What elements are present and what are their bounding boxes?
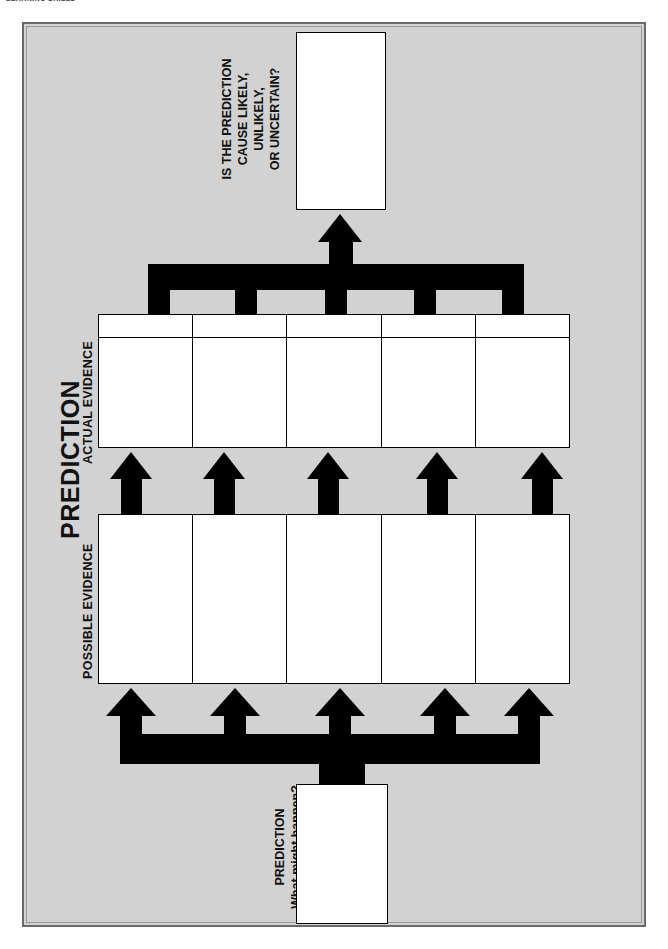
fan-out-stem: [319, 764, 365, 786]
worksheet-frame: PREDICTION ACTUAL EVIDENCE POSSIBLE EVID…: [22, 22, 646, 927]
possible-evidence-cell[interactable]: [99, 515, 193, 683]
actual-evidence-cell[interactable]: [193, 315, 287, 447]
possible-evidence-cell[interactable]: [476, 515, 569, 683]
actual-evidence-cell[interactable]: [382, 315, 476, 447]
fan-in-tine-2: [235, 290, 257, 316]
fan-out-tine-4: [434, 714, 456, 736]
conclusion-answer-box[interactable]: [296, 32, 386, 210]
possible-evidence-cell[interactable]: [193, 515, 287, 683]
actual-evidence-cell[interactable]: [476, 315, 569, 447]
running-head: LEARNING SKILLS: [6, 0, 75, 4]
mid-arrow-shaft-5: [532, 479, 553, 515]
fan-out-arrowhead-2: [210, 688, 260, 716]
section-label-possible-evidence: POSSIBLE EVIDENCE: [81, 543, 95, 679]
possible-evidence-grid: [98, 514, 570, 684]
mid-arrow-shaft-4: [427, 479, 448, 515]
prediction-answer-box[interactable]: [296, 784, 388, 924]
fan-in-tine-3: [325, 290, 347, 316]
section-label-actual-evidence: ACTUAL EVIDENCE: [81, 341, 95, 464]
mid-arrow-head-1: [110, 452, 152, 479]
conclusion-line-4: OR UNCERTAIN?: [267, 29, 283, 209]
mid-arrow-head-4: [416, 452, 458, 479]
fan-out-arrowhead-4: [420, 688, 470, 716]
mid-arrow-shaft-2: [214, 479, 235, 515]
fan-out-arrowhead-1: [106, 688, 156, 716]
actual-evidence-header-rule: [98, 337, 570, 338]
fan-out-arrowhead-5: [504, 688, 554, 716]
mid-arrow-head-3: [307, 452, 349, 479]
possible-evidence-cell[interactable]: [287, 515, 381, 683]
conclusion-line-3: UNLIKELY,: [251, 29, 267, 209]
mid-arrow-shaft-3: [318, 479, 339, 515]
fan-out-tine-2: [224, 714, 246, 736]
fan-in-crossbar: [148, 264, 524, 290]
mid-arrow-head-2: [203, 452, 245, 479]
actual-evidence-cell[interactable]: [287, 315, 381, 447]
fan-out-crossbar: [120, 734, 540, 764]
mid-arrow-head-5: [521, 452, 563, 479]
fan-in-tine-4: [414, 290, 436, 316]
fan-in-tine-1: [148, 290, 170, 316]
actual-evidence-cell[interactable]: [99, 315, 193, 447]
fan-out-tine-3: [329, 714, 351, 736]
possible-evidence-cell[interactable]: [382, 515, 476, 683]
conclusion-line-1: IS THE PREDICTION: [219, 29, 235, 209]
start-label-line-1: PREDICTION: [272, 772, 288, 922]
fan-out-tine-5: [518, 714, 540, 736]
fan-in-arrowhead: [318, 214, 362, 242]
fan-out-arrowhead-3: [315, 688, 365, 716]
mid-arrow-shaft-1: [121, 479, 142, 515]
actual-evidence-grid: [98, 314, 570, 448]
conclusion-line-2: CAUSE LIKELY,: [235, 29, 251, 209]
fan-out-tine-1: [120, 714, 142, 736]
fan-in-tine-5: [502, 290, 524, 316]
conclusion-question-label: IS THE PREDICTION CAUSE LIKELY, UNLIKELY…: [219, 29, 283, 209]
